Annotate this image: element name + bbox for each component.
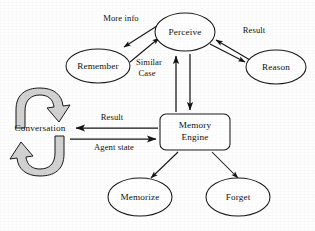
node-forget-label: Forget [226, 192, 251, 202]
edge-label-similar: Similar [136, 57, 162, 67]
node-perceive-label: Perceive [169, 27, 202, 37]
node-forget[interactable]: Forget [206, 178, 270, 216]
edge-label-agent-state: Agent state [94, 142, 134, 152]
node-memorize[interactable]: Memorize [108, 178, 172, 216]
node-conversation[interactable]: Conversation [15, 123, 66, 133]
architecture-diagram: Perceive Remember Reason Memory Engine M… [0, 0, 315, 231]
edge-label-case: Case [138, 68, 155, 78]
node-reason[interactable]: Reason [246, 50, 306, 84]
edge-label-result-top: Result [243, 25, 266, 35]
diagram-canvas-root: Perceive Remember Reason Memory Engine M… [0, 0, 315, 231]
node-perceive[interactable]: Perceive [155, 13, 215, 51]
node-reason-label: Reason [262, 62, 290, 72]
edge-label-more-info: More info [103, 13, 139, 23]
edge-engine-to-forget [212, 152, 238, 178]
edge-label-result-mid: Result [101, 112, 124, 122]
node-remember[interactable]: Remember [66, 49, 130, 83]
node-memorize-label: Memorize [121, 192, 160, 202]
node-conversation-label: Conversation [15, 123, 66, 133]
edge-perceive-to-remember [124, 24, 160, 47]
node-memory-engine[interactable]: Memory Engine [160, 114, 230, 150]
node-memory-engine-label-line2: Engine [182, 132, 209, 142]
node-memory-engine-label-line1: Memory [179, 120, 212, 130]
node-remember-label: Remember [77, 61, 119, 71]
edge-engine-to-memorize [151, 152, 178, 178]
